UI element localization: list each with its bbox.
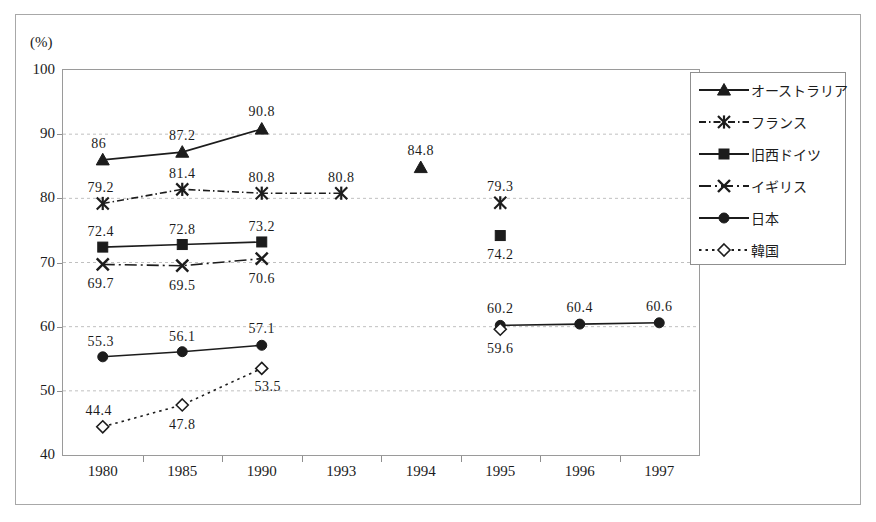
data-label: 79.3 <box>487 180 514 194</box>
legend-marker-diamond-icon <box>697 240 751 260</box>
data-label: 53.5 <box>255 380 282 394</box>
series-line <box>103 189 342 203</box>
y-axis-unit-label: (%) <box>30 34 53 51</box>
data-label: 60.6 <box>646 300 673 314</box>
legend-item-5[interactable]: 日本 <box>691 202 845 234</box>
data-label: 70.6 <box>249 272 276 286</box>
data-label: 72.4 <box>88 225 115 239</box>
data-point-square <box>495 231 505 241</box>
data-point-square <box>177 240 187 250</box>
data-label: 73.2 <box>249 220 276 234</box>
legend-marker-circle-icon <box>697 208 751 228</box>
data-point-circle <box>98 352 108 362</box>
legend-marker-asterisk-icon <box>697 112 751 132</box>
legend-item-label: 旧西ドイツ <box>751 144 821 164</box>
data-point-diamond <box>97 421 109 433</box>
data-label: 44.4 <box>86 404 113 418</box>
data-label: 84.8 <box>408 144 435 158</box>
legend-item-label: 韓国 <box>751 240 779 260</box>
data-point-triangle <box>414 161 427 173</box>
data-point-square <box>98 242 108 252</box>
data-label: 80.8 <box>328 171 355 185</box>
data-point-diamond <box>176 399 188 411</box>
data-point-circle <box>177 347 187 357</box>
chart-figure: (%) 100908070605040198019851990199319941… <box>0 0 876 522</box>
data-label: 56.1 <box>169 330 196 344</box>
legend-item-3[interactable]: 旧西ドイツ <box>691 138 845 170</box>
data-point-square <box>257 237 267 247</box>
data-label: 72.8 <box>169 223 196 237</box>
legend-marker-cross-icon <box>697 176 751 196</box>
data-point-circle <box>654 318 664 328</box>
data-point-square <box>719 149 729 159</box>
data-label: 69.7 <box>88 277 115 291</box>
data-point-circle <box>575 319 585 329</box>
data-label: 55.3 <box>88 335 115 349</box>
legend-item-1[interactable]: オーストラリア <box>691 74 845 106</box>
plot-area <box>62 69 700 456</box>
legend-item-6[interactable]: 韓国 <box>691 234 845 266</box>
data-label: 60.4 <box>567 301 594 315</box>
data-point-triangle <box>255 123 268 135</box>
legend-marker-triangle-icon <box>697 80 751 100</box>
legend-item-label: 日本 <box>751 208 779 228</box>
data-label: 59.6 <box>487 342 514 356</box>
data-label: 80.8 <box>249 171 276 185</box>
data-point-diamond <box>718 244 730 256</box>
data-point-diamond <box>256 362 268 374</box>
plot-canvas <box>63 70 699 455</box>
chart-legend: オーストラリアフランス旧西ドイツイギリス日本韓国 <box>690 72 846 265</box>
data-label: 47.8 <box>169 418 196 432</box>
data-label: 69.5 <box>169 279 196 293</box>
legend-item-2[interactable]: フランス <box>691 106 845 138</box>
data-point-circle <box>257 340 267 350</box>
legend-item-4[interactable]: イギリス <box>691 170 845 202</box>
data-label: 90.8 <box>249 105 276 119</box>
legend-item-label: フランス <box>751 112 807 132</box>
data-label: 60.2 <box>487 302 514 316</box>
data-label: 57.1 <box>249 322 276 336</box>
legend-marker-square-icon <box>697 144 751 164</box>
data-label: 86 <box>91 137 106 151</box>
data-point-circle <box>719 213 729 223</box>
data-label: 81.4 <box>169 167 196 181</box>
data-label: 74.2 <box>487 248 514 262</box>
legend-item-label: オーストラリア <box>751 80 848 100</box>
data-label: 87.2 <box>169 129 196 143</box>
legend-item-label: イギリス <box>751 176 807 196</box>
data-point-asterisk <box>494 196 506 209</box>
data-label: 79.2 <box>88 181 115 195</box>
